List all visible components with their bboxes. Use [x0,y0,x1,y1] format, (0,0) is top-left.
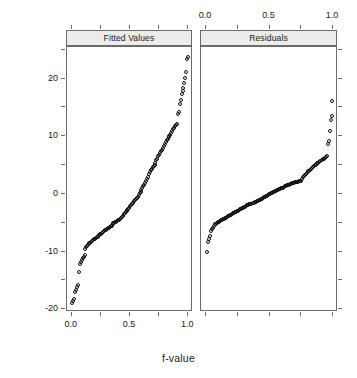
data-point [72,297,76,301]
panel-strip-2: Residuals [200,30,337,46]
x-tick-top [269,25,270,29]
y-tick-right [338,49,342,50]
data-point [182,81,186,85]
y-tick-left [61,222,65,223]
data-point [177,110,181,114]
data-point [330,114,334,118]
data-point [179,98,183,102]
y-axis-title-rotator: Yield (bushels/acre) [0,0,18,20]
x-tick-top [187,25,188,29]
x-tick-top [300,25,301,29]
data-point [175,122,179,126]
y-tick-label: 10 [26,130,58,140]
y-tick-right [338,106,342,107]
data-point [83,253,87,257]
y-tick-right [338,135,342,136]
y-tick-left [61,78,65,79]
x-tick-bottom [237,312,238,316]
panel-strip-label: Fitted Values [104,33,155,43]
x-tick-bottom [269,312,270,316]
x-axis-title: f-value [0,352,357,364]
x-tick-label-bottom: 0.0 [64,319,77,329]
data-point [186,55,190,59]
data-point [208,234,212,238]
y-tick-left [61,49,65,50]
data-point [76,283,80,287]
y-axis-title: Yield (bushels/acre) [118,0,130,20]
plot-panel-2 [200,46,337,311]
x-tick-top [205,25,206,29]
data-point [77,270,81,274]
x-tick-label-top: 0.5 [262,10,275,20]
plot-panel-1 [66,46,192,311]
y-tick-label: -10 [26,246,58,256]
y-tick-right [338,251,342,252]
x-tick-top [332,25,333,29]
x-tick-top [100,25,101,29]
data-point [328,129,332,133]
y-tick-label: 0 [26,188,58,198]
y-tick-label: -20 [26,303,58,313]
x-tick-label-bottom: 1.0 [181,319,194,329]
y-tick-left [61,193,65,194]
panel-strip-label: Residuals [249,33,288,43]
y-tick-right [338,78,342,79]
y-tick-left [61,308,65,309]
y-tick-left [61,279,65,280]
x-tick-bottom [129,312,130,316]
x-tick-top [129,25,130,29]
y-tick-right [338,308,342,309]
panel-strip-1: Fitted Values [66,30,192,46]
x-tick-bottom [100,312,101,316]
data-point [181,86,185,90]
x-tick-bottom [300,312,301,316]
x-tick-top [158,25,159,29]
y-tick-left [61,164,65,165]
y-tick-left [61,106,65,107]
x-tick-label-bottom: 0.5 [123,319,136,329]
data-point [183,76,187,80]
x-tick-label-top: 1.0 [326,10,339,20]
x-tick-bottom [332,312,333,316]
y-tick-right [338,222,342,223]
data-point [205,250,209,254]
y-tick-left [61,135,65,136]
y-tick-left [61,251,65,252]
data-point [207,237,211,241]
data-point [184,70,188,74]
quantile-plot-figure: Yield (bushels/acre) Fitted Values0.00.5… [0,0,357,378]
y-tick-right [338,164,342,165]
y-tick-right [338,279,342,280]
x-tick-top [237,25,238,29]
x-tick-top [71,25,72,29]
data-point [330,99,334,103]
x-tick-bottom [71,312,72,316]
x-tick-bottom [158,312,159,316]
data-point [329,118,333,122]
y-tick-right [338,193,342,194]
x-tick-label-top: 0.0 [199,10,212,20]
data-point [178,102,182,106]
x-tick-bottom [187,312,188,316]
y-tick-label: 20 [26,73,58,83]
x-tick-bottom [205,312,206,316]
